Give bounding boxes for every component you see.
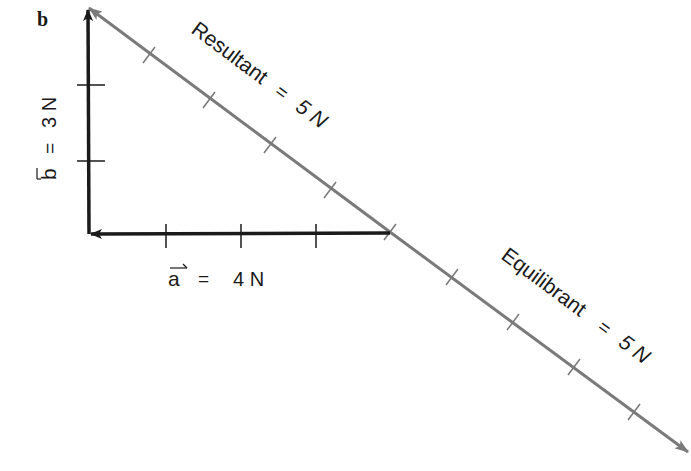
resultant-label-text: Resultant [188, 17, 273, 88]
vector-diagram: b [0, 0, 691, 471]
resultant-equals: = [271, 80, 292, 103]
equilibrant-label: Equilibrant = 5 N [498, 243, 656, 368]
vector-b-label: b = 3 N [37, 97, 60, 180]
vector-b-symbol: b [37, 168, 60, 180]
resultant-label: Resultant = 5 N [188, 17, 333, 133]
vector-b [77, 10, 105, 234]
vector-b-ticks [77, 85, 105, 161]
equilibrant-equals: = [594, 316, 615, 339]
vector-a-label: a = 4 N [168, 264, 264, 290]
vector-b-equals: = [39, 143, 60, 154]
resultant-value: 5 N [292, 94, 333, 132]
vector-a-symbol: a [168, 267, 180, 290]
equilibrant-value: 5 N [615, 330, 656, 368]
resultant-vector [89, 8, 390, 232]
equilibrant-label-text: Equilibrant [498, 243, 592, 321]
equilibrant-vector [384, 224, 688, 452]
panel-label: b [37, 8, 48, 30]
vector-a-equals: = [198, 268, 209, 289]
vector-a-value: 4 N [233, 268, 264, 290]
vector-a-ticks [166, 224, 316, 248]
vector-a [91, 224, 390, 248]
vector-b-value: 3 N [38, 97, 60, 128]
